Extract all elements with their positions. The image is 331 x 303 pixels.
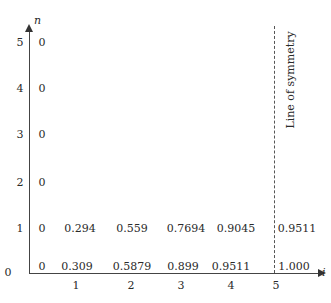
value-n1-i1: 0.294 [64, 223, 96, 235]
x-tick-4: 4 [228, 280, 235, 292]
value-n4-i0: 0 [39, 83, 46, 95]
value-n1-i4: 0.9045 [217, 223, 256, 235]
n-axis [29, 30, 30, 273]
value-n0-i1: 0.309 [61, 261, 93, 273]
y-tick-4: 4 [17, 83, 24, 95]
value-n0-i4: 0.9511 [212, 261, 251, 273]
x-tick-1: 1 [73, 280, 80, 292]
value-n5-i0: 0 [39, 37, 46, 49]
value-n1-i0: 0 [39, 223, 46, 235]
n-axis-label: n [34, 14, 41, 27]
symmetry-label: Line of symmetry [284, 31, 297, 128]
y-tick-0: 0 [5, 267, 12, 279]
value-n0-i2: 0.5879 [113, 261, 152, 273]
n-axis-arrow-icon [25, 24, 33, 32]
value-n2-i0: 0 [39, 177, 46, 189]
value-n0-i0: 0 [39, 261, 46, 273]
y-tick-5: 5 [17, 37, 24, 49]
y-tick-3: 3 [17, 129, 24, 141]
value-n1-i2: 0.559 [116, 223, 148, 235]
symmetry-line [274, 26, 275, 273]
x-tick-5: 5 [273, 280, 280, 292]
value-n0-i3: 0.899 [167, 261, 199, 273]
i-axis [29, 273, 319, 274]
y-tick-1: 1 [17, 223, 24, 235]
value-n3-i0: 0 [39, 129, 46, 141]
x-tick-3: 3 [178, 280, 185, 292]
value-n1-i3: 0.7694 [167, 223, 206, 235]
value-n1-i5: 0.9511 [278, 223, 317, 235]
value-n0-i5: 1.000 [278, 261, 310, 273]
i-axis-label: i [322, 266, 326, 279]
x-tick-2: 2 [128, 280, 135, 292]
y-tick-2: 2 [17, 177, 24, 189]
